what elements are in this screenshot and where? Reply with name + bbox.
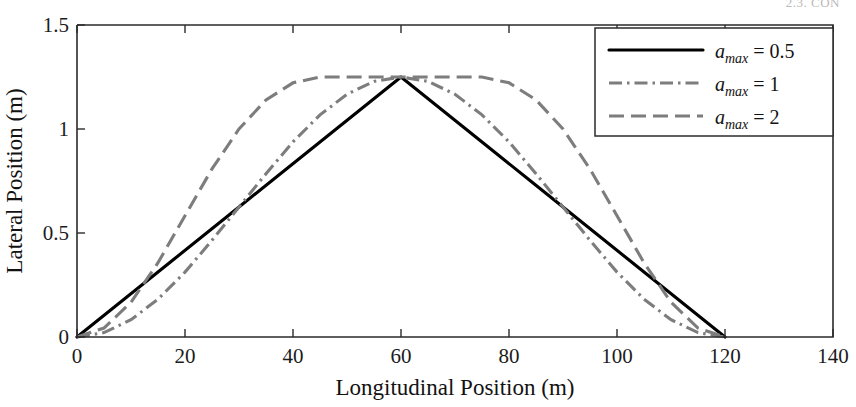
- x-tick-label: 100: [601, 344, 633, 368]
- figure-container: 2.3. CON 02040608010012014000.511.5 Long…: [0, 0, 856, 407]
- y-axis-title: Lateral Position (m): [2, 88, 27, 273]
- y-tick-label: 1.5: [43, 13, 69, 37]
- y-tick-label: 0.5: [43, 221, 69, 245]
- x-tick-label: 140: [817, 344, 849, 368]
- x-tick-label: 20: [175, 344, 196, 368]
- x-axis-title: Longitudinal Position (m): [336, 375, 575, 400]
- x-tick-label: 120: [709, 344, 741, 368]
- line-chart: 02040608010012014000.511.5 Longitudinal …: [0, 0, 856, 407]
- x-tick-label: 40: [283, 344, 304, 368]
- x-tick-label: 60: [391, 344, 412, 368]
- y-tick-label: 0: [59, 325, 70, 349]
- x-tick-label: 0: [72, 344, 83, 368]
- y-tick-label: 1: [59, 117, 70, 141]
- x-tick-label: 80: [499, 344, 520, 368]
- chart-legend: amax= 0.5amax= 1amax= 2: [595, 28, 833, 136]
- legend-box: [595, 28, 833, 136]
